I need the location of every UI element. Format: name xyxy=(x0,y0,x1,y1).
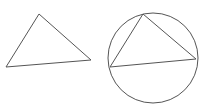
standalone-triangle xyxy=(6,14,91,67)
circumcircle xyxy=(108,13,198,103)
inscribed-triangle xyxy=(110,14,196,67)
geometry-figure xyxy=(0,0,203,111)
